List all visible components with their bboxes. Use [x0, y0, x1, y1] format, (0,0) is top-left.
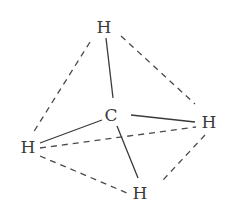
tetrahedron-edges [33, 36, 205, 193]
edge-top-left [33, 42, 90, 133]
edge-left-bottom [40, 156, 127, 193]
bond-c-h-right [131, 115, 195, 122]
edge-right-bottom [163, 135, 205, 180]
atom-hydrogen-right: H [202, 112, 217, 132]
bond-c-h-bottom [117, 126, 138, 178]
atom-hydrogen-left: H [21, 137, 36, 157]
atom-carbon: C [104, 105, 117, 125]
methane-tetrahedron-diagram: C H H H H [0, 0, 234, 211]
edge-top-right [121, 36, 195, 104]
atom-labels: C H H H H [21, 17, 217, 203]
atom-hydrogen-bottom: H [133, 183, 148, 203]
bond-c-h-left [40, 120, 102, 143]
bond-c-h-top [106, 38, 113, 98]
atom-hydrogen-top: H [97, 17, 112, 37]
